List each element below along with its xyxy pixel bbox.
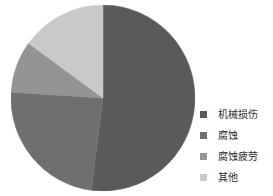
legend-item-corrosion[interactable]: 腐蚀 bbox=[199, 125, 273, 146]
legend-swatch-icon bbox=[200, 111, 207, 118]
pie-svg bbox=[11, 5, 195, 191]
legend-item-other[interactable]: 其他 bbox=[199, 167, 273, 188]
legend-item-label: 腐蚀 bbox=[218, 130, 238, 141]
pie-slices bbox=[11, 5, 195, 191]
legend-item-label: 机械损伤 bbox=[218, 109, 258, 120]
pie-plot-area bbox=[11, 5, 195, 191]
legend-item-label: 腐蚀疲劳 bbox=[218, 151, 258, 162]
legend-swatch-icon bbox=[200, 153, 207, 160]
legend-swatch-icon bbox=[200, 132, 207, 139]
legend-item-corrosion-fatigue[interactable]: 腐蚀疲劳 bbox=[199, 146, 273, 167]
pie-chart-figure: 机械损伤 腐蚀 腐蚀疲劳 其他 bbox=[0, 0, 273, 196]
legend-item-label: 其他 bbox=[218, 172, 238, 183]
chart-legend: 机械损伤 腐蚀 腐蚀疲劳 其他 bbox=[199, 104, 273, 190]
legend-swatch-icon bbox=[200, 174, 207, 181]
pie-slice-mechanical-damage[interactable] bbox=[91, 5, 195, 191]
pie-slice-corrosion[interactable] bbox=[11, 92, 103, 190]
legend-item-mechanical-damage[interactable]: 机械损伤 bbox=[199, 104, 273, 125]
